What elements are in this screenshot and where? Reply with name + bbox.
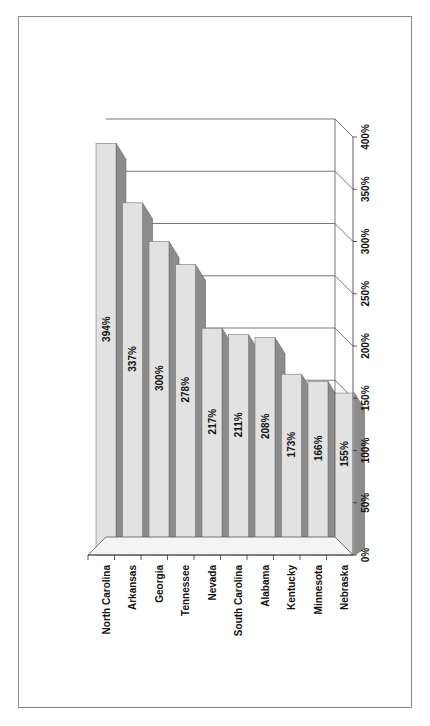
- bar: 166%: [308, 382, 338, 555]
- y-tick-label: 200%: [360, 333, 371, 359]
- data-label: 217%: [207, 409, 218, 435]
- category-label: Nevada: [207, 565, 218, 601]
- category-label: Georgia: [154, 565, 165, 603]
- bar: 155%: [335, 393, 365, 555]
- bar: 173%: [282, 374, 312, 555]
- data-label: 394%: [101, 316, 112, 342]
- data-label: 300%: [154, 365, 165, 391]
- data-label: 337%: [127, 346, 138, 372]
- bar: 217%: [202, 328, 232, 555]
- category-label: South Carolina: [233, 565, 244, 637]
- category-label: Arkansas: [127, 565, 138, 610]
- y-tick-label: 0%: [360, 548, 371, 563]
- y-tick-label: 300%: [360, 229, 371, 255]
- y-tick-label: 250%: [360, 281, 371, 307]
- data-label: 211%: [233, 412, 244, 437]
- bar: 278%: [176, 264, 206, 555]
- data-label: 208%: [260, 413, 271, 439]
- category-label: Minnesota: [313, 565, 324, 615]
- y-tick-label: 350%: [360, 176, 371, 202]
- category-label: Tennessee: [180, 565, 191, 616]
- bar-chart: 394%337%300%278%217%211%208%173%166%155%…: [0, 0, 430, 726]
- category-label: North Carolina: [101, 565, 112, 635]
- y-tick-label: 50%: [360, 493, 371, 513]
- data-label: 166%: [313, 435, 324, 461]
- category-label: Alabama: [260, 565, 271, 607]
- data-label: 278%: [180, 377, 191, 403]
- category-label: Kentucky: [286, 565, 297, 610]
- data-label: 155%: [339, 441, 350, 467]
- y-tick-label: 400%: [360, 124, 371, 150]
- y-tick-label: 150%: [360, 385, 371, 411]
- bar: 211%: [229, 335, 259, 555]
- bar: 394%: [96, 143, 126, 555]
- bar: 208%: [255, 338, 285, 555]
- data-label: 173%: [286, 432, 297, 458]
- bar: 300%: [149, 242, 179, 556]
- category-axis-labels: North CarolinaArkansasGeorgiaTennesseeNe…: [88, 555, 350, 636]
- bar: 337%: [123, 203, 153, 555]
- y-tick-label: 100%: [360, 438, 371, 464]
- category-label: Nebraska: [339, 565, 350, 610]
- bars: 394%337%300%278%217%211%208%173%166%155%: [96, 143, 365, 555]
